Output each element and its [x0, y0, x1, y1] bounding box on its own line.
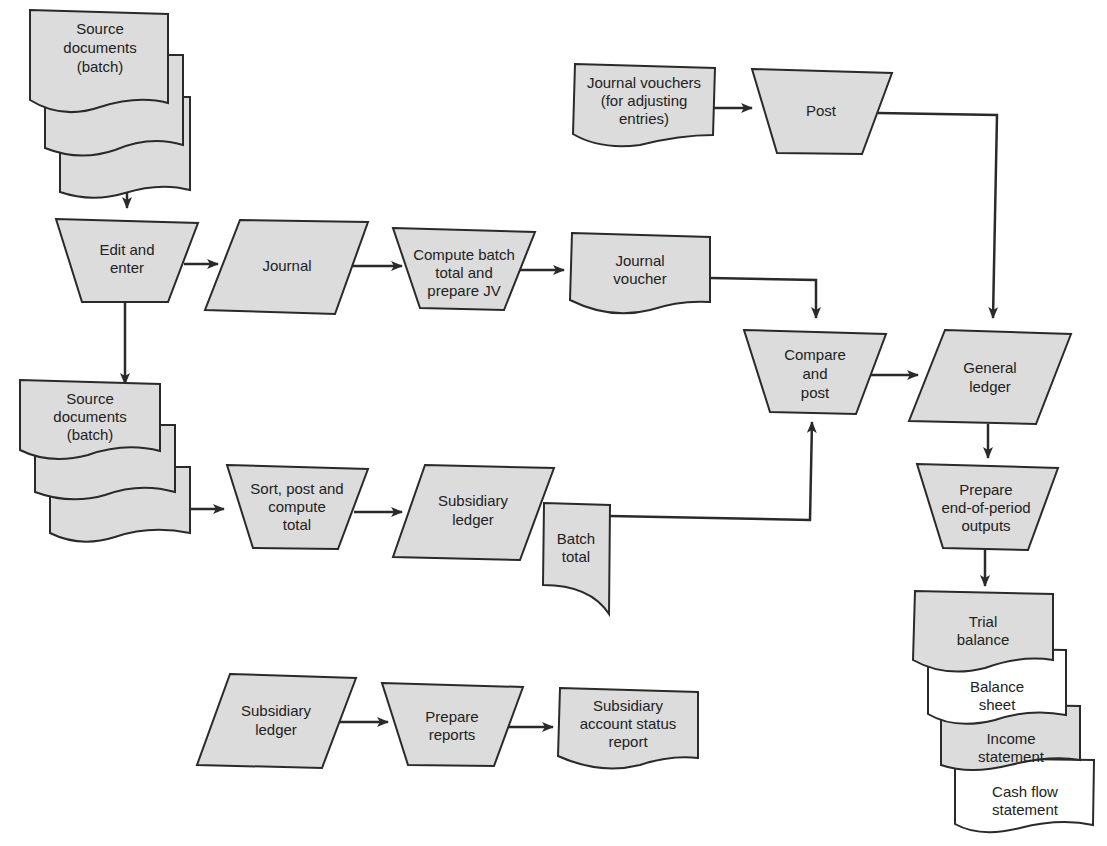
end-of-period-reports[interactable]: Cash flowstatement Incomestatement Balan… [913, 591, 1094, 832]
batch-total[interactable]: Batchtotal [543, 503, 610, 614]
svg-text:Batchtotal: Batchtotal [557, 530, 595, 565]
svg-text:Cash flowstatement: Cash flowstatement [992, 783, 1059, 818]
prepare-end-of-period[interactable]: Prepareend-of-periodoutputs [917, 464, 1058, 550]
subsidiary-ledger-report[interactable]: Subsidiaryledger [197, 674, 356, 768]
journal-voucher[interactable]: Journalvoucher [570, 233, 710, 313]
source-documents-top[interactable]: Sourcedocuments(batch) [30, 10, 190, 198]
edge-post-to-ledger [878, 113, 997, 318]
connectors [125, 108, 997, 727]
edge-voucher-to-compare [710, 278, 816, 318]
general-ledger[interactable]: Generalledger [909, 330, 1071, 424]
prepare-reports[interactable]: Preparereports [382, 683, 523, 766]
sort-post-compute[interactable]: Sort, post andcomputetotal [227, 465, 368, 549]
journal-vouchers-adjusting[interactable]: Journal vouchers(for adjustingentries) [573, 64, 715, 146]
svg-text:Journal: Journal [262, 257, 311, 274]
svg-text:Preparereports: Preparereports [425, 708, 478, 743]
svg-text:Journalvoucher: Journalvoucher [613, 252, 666, 287]
node-text-line: documents [63, 39, 136, 56]
flowchart-canvas: Sourcedocuments(batch) Edit andenter Jou… [0, 0, 1107, 846]
node-text-line: (batch) [77, 58, 124, 75]
svg-text:Post: Post [806, 102, 837, 119]
edit-and-enter[interactable]: Edit andenter [56, 219, 198, 302]
node-text-line: Source [76, 20, 124, 37]
post[interactable]: Post [752, 69, 892, 154]
compare-and-post[interactable]: Compareandpost [744, 330, 886, 414]
journal[interactable]: Journal [205, 220, 368, 314]
svg-text:Incomestatement: Incomestatement [978, 730, 1045, 765]
trial-balance[interactable]: Trialbalance [913, 591, 1053, 672]
subsidiary-account-status-report[interactable]: Subsidiaryaccount statusreport [558, 688, 698, 768]
edge-batch-to-compare [610, 422, 812, 520]
subsidiary-ledger-main[interactable]: Subsidiaryledger [393, 465, 554, 560]
source-documents-bottom[interactable]: Sourcedocuments(batch) [20, 380, 190, 542]
compute-batch-total[interactable]: Compute batchtotal andprepare JV [393, 228, 535, 310]
